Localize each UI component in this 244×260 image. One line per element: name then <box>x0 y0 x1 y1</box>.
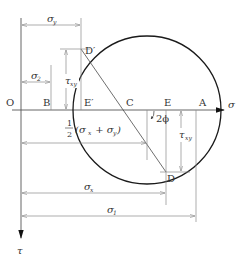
point-C-label: C <box>126 97 134 108</box>
dimension-tau-xy-right: τ xy <box>178 111 194 171</box>
dimension-half-sum: 1 2 (σ x + σ y ) <box>22 119 146 143</box>
tau-axis-label: τ <box>17 245 23 256</box>
svg-text:): ) <box>116 124 121 135</box>
angle-2phi: 2ϕ <box>151 111 169 124</box>
svg-text:1: 1 <box>113 209 117 216</box>
point-E-prime-label: E′ <box>84 97 94 108</box>
dimension-sigma-1: σ 1 <box>22 204 195 216</box>
diameter-line <box>81 49 166 172</box>
point-D-label: D <box>167 173 175 184</box>
svg-text:(σ: (σ <box>75 124 87 135</box>
mohr-circle-diagram: τ σ O σ y σ 2 τ xy τ xy <box>0 0 244 260</box>
svg-text:y: y <box>52 18 57 26</box>
origin-label: O <box>6 97 14 108</box>
dimension-tau-xy-left: τ xy <box>63 50 79 109</box>
svg-text:x: x <box>90 186 94 193</box>
svg-text:xy: xy <box>70 80 77 88</box>
svg-text:2: 2 <box>36 75 41 82</box>
point-B-label: B <box>43 97 50 108</box>
svg-text:+ σ: + σ <box>92 124 115 135</box>
angle-label: 2ϕ <box>156 113 169 124</box>
svg-text:2: 2 <box>67 130 72 139</box>
point-D-prime-label: D′ <box>85 45 96 56</box>
dimension-sigma-y: σ y <box>22 13 80 26</box>
svg-text:xy: xy <box>185 134 192 142</box>
svg-text:1: 1 <box>67 119 72 128</box>
dimension-sigma-2: σ 2 <box>22 70 50 82</box>
dimension-sigma-x: σ x <box>22 181 165 193</box>
sigma-axis-label: σ <box>228 99 236 110</box>
point-E-label: E <box>164 97 171 108</box>
point-A-label: A <box>198 97 207 108</box>
witness-lines <box>51 18 196 222</box>
